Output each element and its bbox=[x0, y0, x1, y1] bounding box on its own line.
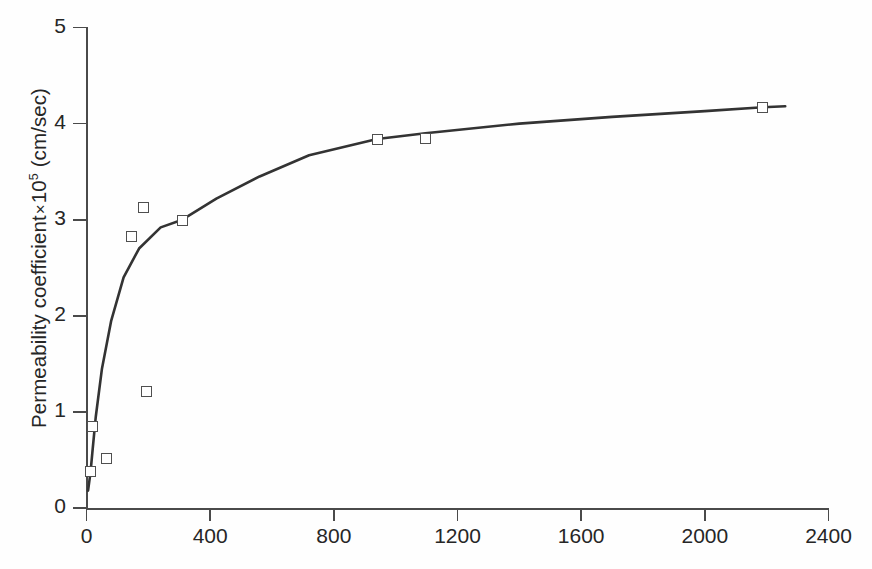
y-tick-label: 3 bbox=[40, 206, 66, 230]
x-tick-mark bbox=[580, 509, 582, 521]
y-tick-label: 5 bbox=[40, 14, 66, 38]
y-tick-mark bbox=[73, 219, 86, 221]
chart-figure: Permeability coefficient×105 (cm/sec) 01… bbox=[0, 0, 872, 569]
y-axis-label-exponent: 5 bbox=[27, 173, 41, 180]
y-tick-mark bbox=[73, 411, 86, 413]
data-point-marker bbox=[126, 231, 137, 242]
fitted-curve bbox=[88, 106, 785, 490]
y-axis-line bbox=[86, 27, 88, 509]
data-point-marker bbox=[87, 421, 98, 432]
y-axis-label-base: 10 bbox=[27, 180, 50, 203]
x-tick-label: 1600 bbox=[546, 524, 616, 548]
data-point-marker bbox=[420, 133, 431, 144]
y-axis-label: Permeability coefficient×105 (cm/sec) bbox=[27, 23, 51, 493]
y-tick-label: 1 bbox=[40, 398, 66, 422]
plot-area bbox=[0, 0, 872, 569]
x-tick-mark bbox=[457, 509, 459, 521]
x-tick-label: 2400 bbox=[794, 524, 864, 548]
x-tick-label: 2000 bbox=[670, 524, 740, 548]
x-tick-label: 0 bbox=[52, 524, 122, 548]
y-tick-label: 2 bbox=[40, 302, 66, 326]
x-tick-mark bbox=[86, 509, 88, 521]
y-tick-mark bbox=[73, 123, 86, 125]
x-tick-mark bbox=[333, 509, 335, 521]
y-tick-label: 4 bbox=[40, 110, 66, 134]
y-tick-mark bbox=[73, 315, 86, 317]
data-point-marker bbox=[101, 453, 112, 464]
y-tick-label: 0 bbox=[40, 494, 66, 518]
x-tick-mark bbox=[209, 509, 211, 521]
data-point-marker bbox=[85, 466, 96, 477]
x-tick-label: 400 bbox=[175, 524, 245, 548]
data-point-marker bbox=[177, 215, 188, 226]
y-tick-mark bbox=[73, 507, 86, 509]
data-point-marker bbox=[372, 134, 383, 145]
y-tick-mark bbox=[73, 27, 86, 29]
data-point-marker bbox=[757, 102, 768, 113]
x-tick-mark bbox=[828, 509, 830, 521]
x-tick-mark bbox=[704, 509, 706, 521]
data-point-marker bbox=[138, 202, 149, 213]
x-tick-label: 800 bbox=[299, 524, 369, 548]
x-tick-label: 1200 bbox=[423, 524, 493, 548]
data-point-marker bbox=[141, 386, 152, 397]
